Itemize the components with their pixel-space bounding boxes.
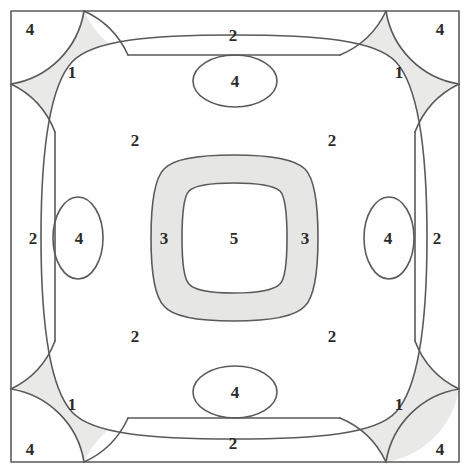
- region-label-inner-top-right: 2: [328, 132, 337, 149]
- region-label-corner-bottom-right: 4: [436, 441, 445, 458]
- region-label-corner-top-left: 4: [26, 21, 35, 38]
- region-label-corner-top-right: 4: [436, 21, 445, 38]
- diagram-canvas: 42411422243534222411424: [0, 0, 469, 475]
- region-label-inner-bottom-right: 2: [328, 328, 337, 345]
- region-label-corner-bottom-left: 4: [26, 441, 35, 458]
- region-label-center: 5: [230, 230, 239, 247]
- region-label-lobe-left: 4: [75, 230, 84, 247]
- region-label-inner-top-left: 2: [131, 132, 140, 149]
- region-label-diagonal-top-left: 1: [68, 64, 77, 81]
- region-label-inner-bottom-left: 2: [131, 328, 140, 345]
- region-label-ring-left: 3: [160, 230, 169, 247]
- region-label-edge-right: 2: [433, 230, 442, 247]
- region-label-diagonal-top-right: 1: [395, 64, 404, 81]
- region-label-edge-left: 2: [29, 230, 38, 247]
- region-label-edge-top: 2: [229, 27, 238, 44]
- region-label-lobe-bottom: 4: [231, 384, 240, 401]
- region-label-lobe-right: 4: [384, 230, 393, 247]
- region-label-lobe-top: 4: [231, 73, 240, 90]
- region-label-diagonal-bottom-left: 1: [68, 396, 77, 413]
- region-label-diagonal-bottom-right: 1: [395, 396, 404, 413]
- region-label-edge-bottom: 2: [229, 435, 238, 452]
- region-label-ring-right: 3: [301, 230, 310, 247]
